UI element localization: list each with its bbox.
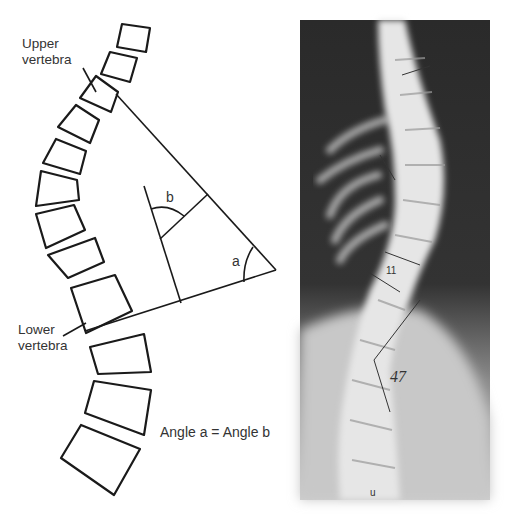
- cobb-line-lower-a: [374, 300, 420, 360]
- ribs: [320, 120, 385, 260]
- vertebra-12: [61, 425, 140, 495]
- vertebra-1: [117, 24, 150, 52]
- upper-vertebra-label: Upper vertebra: [22, 36, 72, 68]
- cobb-angle-value: 47: [390, 368, 407, 385]
- upper-label-line-2: vertebra: [22, 52, 72, 68]
- vertebra-10-lower: [90, 334, 151, 374]
- lower-vertebra-label: Lower vertebra: [18, 322, 68, 354]
- vertebra-5: [43, 139, 86, 174]
- upper-endplate-line: [116, 94, 276, 270]
- vertebra-7: [36, 205, 85, 248]
- xray-background: [300, 20, 490, 500]
- xray-markings: [365, 66, 430, 412]
- lower-label-line-1: Lower: [18, 322, 68, 338]
- angle-b-label: b: [166, 189, 174, 205]
- vertebra-3-upper: [80, 76, 118, 112]
- cobb-line-lower-b: [374, 360, 390, 412]
- vertebra-4: [58, 105, 99, 143]
- angle-a-label: a: [232, 253, 240, 269]
- soft-tissue: [300, 308, 490, 501]
- vertebra-2: [101, 52, 137, 82]
- xray-bottom-mark: u: [370, 487, 376, 498]
- vertebral-body-shadows: [350, 58, 445, 468]
- endplate-line-1: [385, 252, 420, 265]
- vertebra-9: [71, 275, 132, 333]
- upper-label-line-1: Upper: [22, 36, 72, 52]
- upper-cobb-line: [402, 66, 430, 75]
- angle-a-arc: [244, 247, 253, 282]
- vertebra-6: [36, 171, 79, 206]
- xray-vertebra-mark: 11: [386, 265, 397, 276]
- spine-vertebrae: [36, 24, 151, 495]
- angle-equation-label: Angle a = Angle b: [160, 424, 270, 440]
- endplate-line-2: [365, 270, 400, 292]
- lower-label-line-2: vertebra: [18, 338, 68, 354]
- angle-b-arc: [151, 207, 184, 216]
- perpendicular-lower: [144, 186, 181, 303]
- spinal-column: [338, 20, 444, 500]
- vertebra-11: [85, 381, 151, 435]
- mid-line-1: [380, 155, 395, 180]
